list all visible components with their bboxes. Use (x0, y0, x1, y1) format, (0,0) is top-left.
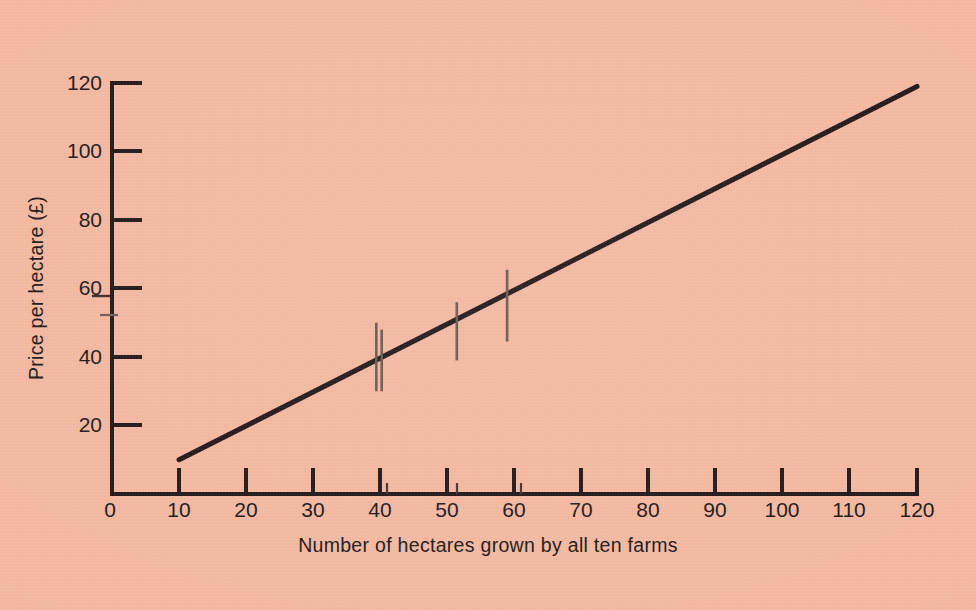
x-tick-label-80: 80 (636, 498, 659, 522)
x-tick-label-30: 30 (301, 498, 324, 522)
y-tick-label-80: 80 (79, 208, 102, 232)
x-tick-label-90: 90 (703, 498, 726, 522)
x-axis-title: Number of hectares grown by all ten farm… (0, 534, 976, 557)
x-tick-label-40: 40 (368, 498, 391, 522)
x-tick-label-20: 20 (234, 498, 257, 522)
x-tick-label-0: 0 (104, 498, 116, 522)
observation-markers (376, 270, 507, 392)
x-axis-ticks (112, 470, 917, 494)
supply-curve-line (179, 86, 917, 459)
y-axis-ticks (112, 83, 140, 425)
x-tick-label-10: 10 (167, 498, 190, 522)
y-tick-label-20: 20 (79, 413, 102, 437)
x-tick-label-50: 50 (435, 498, 458, 522)
x-tick-label-100: 100 (764, 498, 799, 522)
y-tick-label-120: 120 (67, 71, 102, 95)
y-tick-label-60: 60 (79, 276, 102, 300)
x-tick-label-70: 70 (569, 498, 592, 522)
x-tick-label-60: 60 (502, 498, 525, 522)
x-tick-label-120: 120 (899, 498, 934, 522)
chart-figure: 120 100 80 60 40 20 0 10 20 30 40 50 60 … (0, 0, 976, 610)
y-tick-label-40: 40 (79, 345, 102, 369)
y-axis-tick-labels: 120 100 80 60 40 20 (52, 0, 102, 610)
y-axis-title: Price per hectare (£) (25, 196, 48, 380)
y-axis-title-wrap: Price per hectare (£) (14, 0, 58, 610)
chart-plot-area (0, 0, 976, 610)
x-tick-label-110: 110 (832, 498, 865, 522)
y-tick-label-100: 100 (67, 139, 102, 163)
